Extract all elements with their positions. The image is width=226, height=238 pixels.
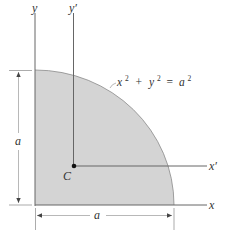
x-prime-axis-label: x′ (208, 159, 217, 173)
y-prime-axis-label: y′ (68, 1, 77, 15)
centroid-dot (72, 164, 77, 169)
quarter-circle-region (35, 70, 174, 205)
eq-y-exp: 2 (157, 74, 161, 83)
dim-horizontal-label: a (94, 208, 100, 222)
y-axis-label: y (31, 1, 38, 15)
svg-text:x 2 + y: x 2 + y 2 = a 2 (116, 71, 192, 89)
eq-plus: + (136, 76, 143, 88)
quarter-circle-diagram: y y′ x x′ C a a x 2 + y 2 = a 2 (0, 0, 226, 238)
equation-leader (110, 83, 116, 88)
eq-a-exp: 2 (188, 74, 192, 83)
eq-equals: = (167, 76, 174, 88)
eq-x-exp: 2 (125, 74, 129, 83)
centroid-label: C (63, 169, 72, 183)
dim-vertical-label: a (15, 134, 21, 148)
eq-x: x (116, 76, 123, 88)
eq-a: a (179, 76, 185, 88)
eq-y: y (148, 76, 155, 89)
circle-equation: x 2 + y 2 = a 2 (116, 71, 192, 89)
x-axis-label: x (208, 198, 215, 212)
